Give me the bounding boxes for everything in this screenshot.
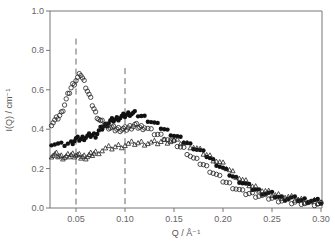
dashed-reference-lines <box>76 39 125 208</box>
open-circle-point <box>159 132 163 136</box>
x-tick-label: 0.10 <box>116 214 134 224</box>
open-triangle-point <box>139 139 144 143</box>
x-tick-label: 0.30 <box>312 214 330 224</box>
x-tick-label: 0.25 <box>263 214 281 224</box>
open-triangle-point <box>106 143 111 147</box>
open-circle-point <box>64 97 68 101</box>
y-axis-label: I(Q) / cm⁻¹ <box>4 89 14 132</box>
data-series <box>49 71 323 207</box>
plot-frame <box>50 11 322 208</box>
saxs-intensity-chart: 0.00.20.40.60.81.0 0.050.100.150.200.250… <box>0 0 335 244</box>
x-tick-label: 0.15 <box>165 214 183 224</box>
filled-circle-point <box>142 114 146 118</box>
y-tick-label: 0.8 <box>31 45 44 55</box>
filled-circle-point <box>165 127 169 131</box>
x-axis-ticks: 0.050.100.150.200.250.30 <box>67 208 330 224</box>
y-tick-label: 0.0 <box>31 203 44 213</box>
x-axis-label: Q / Å⁻¹ <box>172 228 201 238</box>
open-triangle-point <box>253 184 258 188</box>
y-axis-ticks: 0.00.20.40.60.81.0 <box>31 6 50 213</box>
y-tick-label: 0.6 <box>31 85 44 95</box>
x-tick-label: 0.05 <box>67 214 85 224</box>
open-triangle-point <box>152 138 157 142</box>
filled-circle-point <box>133 109 137 113</box>
x-tick-label: 0.20 <box>214 214 232 224</box>
open-circle-point <box>62 103 66 107</box>
open-circle-point <box>240 188 244 192</box>
y-tick-label: 0.4 <box>31 124 44 134</box>
filled-circle-point <box>178 134 182 138</box>
filled-circle-point <box>59 140 63 144</box>
y-tick-label: 0.2 <box>31 164 44 174</box>
filled-circle-point <box>155 121 159 125</box>
open-circle-point <box>149 127 153 131</box>
series-open-circle <box>49 71 323 207</box>
open-triangle-point <box>129 139 134 143</box>
y-tick-label: 1.0 <box>31 6 44 16</box>
open-circle-point <box>195 156 199 160</box>
open-circle-point <box>227 181 231 185</box>
open-triangle-point <box>116 142 121 146</box>
